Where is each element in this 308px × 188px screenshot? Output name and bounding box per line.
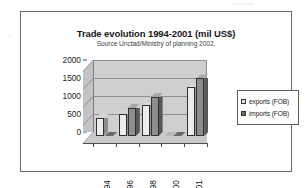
- bar-2000-exports: [164, 135, 172, 136]
- x-tick-mark: [93, 143, 94, 147]
- x-tick-mark: [139, 143, 140, 147]
- bar-1994-imports: [105, 135, 113, 136]
- x-tick-label-1994: 1994: [102, 180, 112, 188]
- y-tick-label: 2000: [63, 55, 81, 65]
- bar-side: [204, 78, 208, 136]
- chart-subtitle: Source Unctad/Ministry of planning 2002.: [21, 40, 291, 47]
- legend-label: exports (FOB): [249, 98, 289, 105]
- scan-artifact-top: [232, 3, 254, 5]
- square-swatch-icon: [241, 99, 246, 104]
- scan-artifact-left: [8, 36, 11, 37]
- y-tick-label: 500: [67, 109, 81, 119]
- x-tick-mark: [161, 143, 162, 147]
- bar-1994-exports: [96, 118, 104, 136]
- bar-face: [151, 97, 159, 136]
- x-tick-mark: [116, 143, 117, 147]
- bar-1996-imports: [128, 108, 136, 136]
- y-tick-label: 1500: [63, 73, 81, 83]
- chart-figure-frame: Trade evolution 1994-2001 (mil US$) Sour…: [20, 11, 292, 172]
- x-tick-label-2000: 2000: [171, 180, 181, 188]
- chart-3d-body: [83, 60, 217, 148]
- legend-entry-exports[interactable]: exports (FOB): [241, 96, 295, 107]
- x-axis: 19941996199820002001: [83, 146, 217, 186]
- bar-face: [96, 118, 104, 136]
- bar-face: [128, 108, 136, 136]
- square-swatch-icon: [241, 111, 246, 116]
- y-tick-label: 1000: [63, 91, 81, 101]
- x-tick-label-1998: 1998: [148, 180, 158, 188]
- legend-label: imports (FOB): [249, 110, 289, 117]
- category-axis-line: [83, 143, 207, 144]
- chart-legend: exports (FOB)imports (FOB): [237, 90, 299, 125]
- x-tick-label-1996: 1996: [125, 180, 135, 188]
- bar-face: [119, 114, 127, 136]
- plot-area: 0500100015002000 19941996199820002001: [57, 60, 217, 165]
- x-tick-mark: [207, 143, 208, 147]
- bar-1998-imports: [151, 97, 159, 136]
- y-tick-label: 0: [76, 127, 81, 137]
- y-axis: 0500100015002000: [57, 60, 83, 132]
- x-tick-mark: [184, 143, 185, 147]
- bar-side: [159, 97, 163, 136]
- bar-2001-exports: [187, 87, 195, 136]
- gridline: [93, 78, 207, 79]
- bar-2000-imports: [173, 135, 181, 136]
- chart-title: Trade evolution 1994-2001 (mil US$): [21, 28, 291, 39]
- bar-1996-exports: [119, 114, 127, 136]
- gridline: [93, 60, 207, 61]
- bar-1998-exports: [142, 105, 150, 136]
- legend-entry-imports[interactable]: imports (FOB): [241, 108, 295, 119]
- x-tick-label-2001: 2001: [194, 180, 204, 188]
- bar-face: [196, 78, 204, 136]
- bar-face: [142, 105, 150, 136]
- bar-face: [187, 87, 195, 136]
- bar-2001-imports: [196, 78, 204, 136]
- bar-side: [136, 108, 140, 136]
